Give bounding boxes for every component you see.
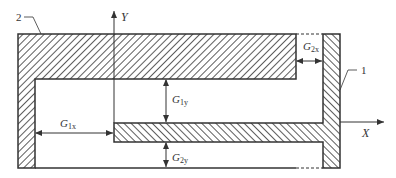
y-axis-label: Y [121, 10, 129, 24]
g1y-base: G [172, 93, 180, 105]
x-axis-label: X [361, 126, 370, 140]
svg-text:G1x: G1x [60, 117, 76, 131]
g2x-sub: 2x [311, 45, 319, 54]
part-1-callout: 1 [340, 64, 367, 90]
g2y-base: G [172, 151, 180, 163]
part-2-callout: 2 [16, 11, 41, 34]
gap-g1x: G1x [36, 117, 113, 133]
g2y-sub: 2y [180, 156, 188, 165]
g1x-sub: 1x [68, 122, 76, 131]
g2x-base: G [303, 40, 311, 52]
g1y-sub: 1y [180, 98, 188, 107]
gap-g1y: G1y [166, 80, 188, 122]
x-axis: X [340, 122, 384, 140]
svg-text:G1y: G1y [172, 93, 188, 107]
svg-text:G2x: G2x [303, 40, 319, 54]
gap-g2x: G2x [297, 40, 322, 61]
gap-g2y: G2y [166, 143, 188, 167]
gap-diagram: Y X G2x G1y G2y G1x 2 1 [0, 0, 396, 178]
svg-text:G2y: G2y [172, 151, 188, 165]
part-2-label: 2 [16, 11, 22, 23]
g1x-base: G [60, 117, 68, 129]
part-2-housing [18, 34, 296, 168]
part-1-label: 1 [361, 64, 367, 76]
